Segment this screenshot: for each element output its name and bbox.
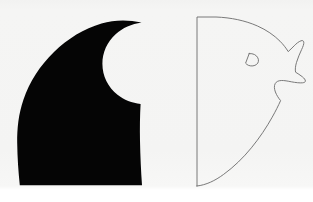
eye-shape-icon bbox=[246, 54, 259, 66]
eagle-head-outline-group bbox=[197, 17, 305, 186]
black-silhouette-group bbox=[17, 21, 142, 186]
black-silhouette bbox=[17, 21, 142, 186]
figure-canvas bbox=[0, 0, 313, 202]
eagle-head-outline bbox=[197, 17, 305, 186]
figure-root bbox=[0, 0, 313, 202]
